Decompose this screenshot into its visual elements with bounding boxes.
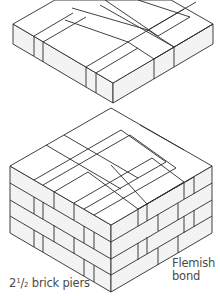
upper-course <box>13 0 213 103</box>
piers-text: brick piers <box>28 276 89 290</box>
bond-line-2: bond <box>172 270 215 283</box>
label-flemish-bond: Flemish bond <box>172 257 215 283</box>
label-brick-piers: 21/2 brick piers <box>9 275 90 292</box>
brickwork-diagram <box>0 0 220 296</box>
